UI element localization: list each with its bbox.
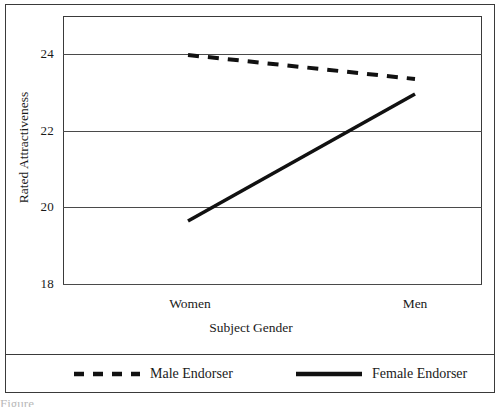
caption-fragment: Figure: [0, 396, 502, 407]
gridline-22: [63, 131, 482, 132]
plot-area-box: [63, 16, 482, 285]
legend-item-female-endorser: Female Endorser: [295, 366, 467, 382]
legend-swatch-dashed-line: [73, 367, 141, 381]
y-tick-label-18: 18: [4, 277, 54, 290]
gridline-18: [63, 284, 482, 285]
legend-label-female-endorser: Female Endorser: [372, 366, 467, 382]
x-axis-title: Subject Gender: [0, 320, 502, 335]
legend-item-male-endorser: Male Endorser: [73, 366, 233, 382]
legend-label-male-endorser: Male Endorser: [150, 366, 233, 382]
legend: Male Endorser Female Endorser: [5, 355, 495, 393]
x-tick-label-women: Women: [130, 296, 250, 311]
x-tick-label-men: Men: [355, 296, 475, 311]
legend-swatch-solid-line: [295, 367, 363, 381]
figure-root: 24 22 20 18 Rated Attractiveness Women M…: [0, 0, 502, 407]
gridline-24: [63, 54, 482, 55]
y-axis-title: Rated Attractiveness: [16, 48, 31, 248]
gridline-20: [63, 207, 482, 208]
